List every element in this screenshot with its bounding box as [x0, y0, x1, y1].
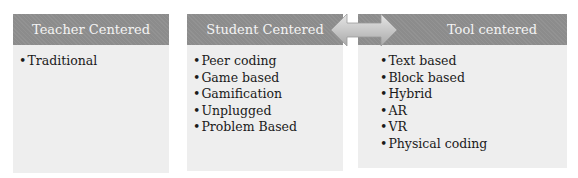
list-item: Hybrid [380, 86, 561, 103]
tool-centered-title: Tool centered [447, 22, 537, 37]
list-item: Problem Based [193, 119, 337, 136]
list-item: Game based [193, 70, 337, 87]
list-item: AR [380, 103, 561, 120]
list-item: Unplugged [193, 103, 337, 120]
list-item: Physical coding [380, 136, 561, 153]
teacher-centered-title: Teacher Centered [32, 22, 150, 37]
student-centered-header: Student Centered [187, 14, 343, 45]
teacher-centered-list: Traditional [13, 45, 169, 173]
teacher-centered-box: Teacher Centered Traditional [13, 14, 169, 173]
teacher-centered-header: Teacher Centered [13, 14, 169, 45]
student-centered-list: Peer coding Game based Gamification Unpl… [187, 45, 343, 171]
double-arrow-icon [330, 12, 398, 48]
student-centered-title: Student Centered [206, 22, 323, 37]
list-item: Block based [380, 70, 561, 87]
list-item: Peer coding [193, 53, 337, 70]
list-item: VR [380, 119, 561, 136]
list-item: Traditional [19, 53, 163, 70]
list-item: Text based [380, 53, 561, 70]
tool-centered-list: Text based Block based Hybrid AR VR Phys… [358, 45, 567, 168]
student-centered-box: Student Centered Peer coding Game based … [187, 14, 343, 171]
list-item: Gamification [193, 86, 337, 103]
